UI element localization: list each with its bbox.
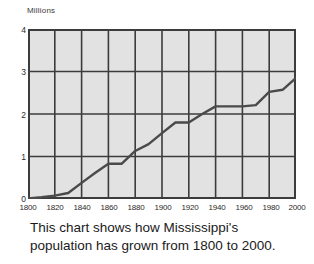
x-tick-1800: 1800 <box>13 203 43 212</box>
x-tick-1820: 1820 <box>40 203 70 212</box>
x-tick-1940: 1940 <box>202 203 232 212</box>
y-tick-1: 1 <box>8 152 26 162</box>
y-tick-3: 3 <box>8 67 26 77</box>
x-tick-1840: 1840 <box>67 203 97 212</box>
x-tick-1960: 1960 <box>229 203 259 212</box>
x-tick-1920: 1920 <box>175 203 205 212</box>
chart-plot-area <box>28 29 296 199</box>
chart-grid-and-series <box>28 29 296 199</box>
caption-line-2: population has grown from 1800 to 2000. <box>30 237 306 255</box>
y-tick-4: 4 <box>8 25 26 35</box>
x-tick-1860: 1860 <box>94 203 124 212</box>
chart-caption: This chart shows how Mississippi's popul… <box>30 219 306 255</box>
x-tick-1880: 1880 <box>121 203 151 212</box>
x-tick-2000: 2000 <box>282 203 312 212</box>
x-tick-1900: 1900 <box>148 203 178 212</box>
caption-line-1: This chart shows how Mississippi's <box>30 219 306 237</box>
y-tick-2: 2 <box>8 110 26 120</box>
chart-page: Millions 4 3 2 1 0 1800 1820 1840 1860 1… <box>0 0 314 264</box>
